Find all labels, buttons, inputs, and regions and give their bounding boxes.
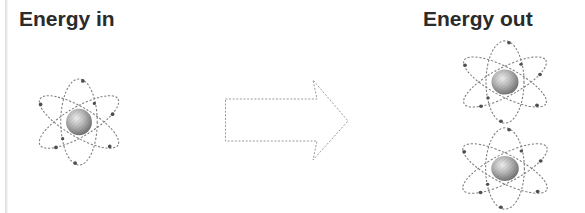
scan-edge-artifact — [5, 0, 8, 213]
block-arrow-right-icon — [225, 79, 349, 161]
energy-out-label: Energy out — [423, 8, 533, 29]
atom-icon — [454, 126, 556, 211]
atom-icon — [455, 39, 555, 125]
energy-diagram: Energy in Energy out — [0, 0, 585, 213]
energy-in-label: Energy in — [19, 8, 115, 29]
atom-icon — [31, 77, 127, 167]
